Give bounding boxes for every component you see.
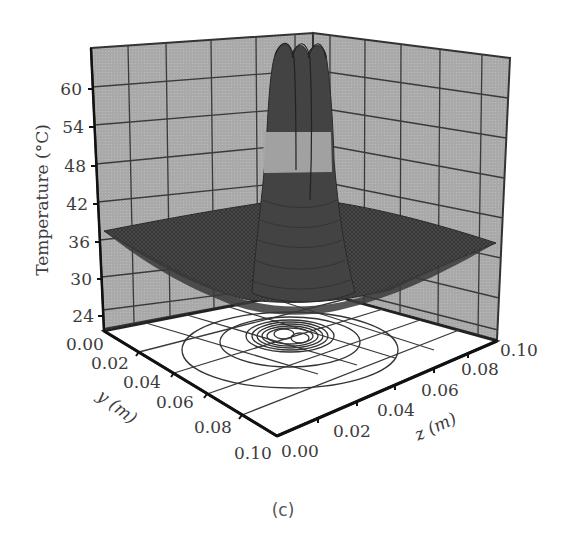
temperature-axis: 60 54 48 42 36 30 24 Temperature (°C) <box>32 48 104 331</box>
y-tick: 0.06 <box>156 392 194 412</box>
z-tick: 60 <box>60 79 82 99</box>
x-tick: 0.10 <box>500 340 538 360</box>
x-tick: 0.02 <box>333 421 371 441</box>
x-tick: 0.06 <box>421 380 459 400</box>
z-tick: 42 <box>66 194 88 214</box>
y-tick: 0.00 <box>66 334 104 354</box>
z-tick: 48 <box>64 156 86 176</box>
x-tick: 0.00 <box>281 441 319 461</box>
z-tick: 36 <box>68 232 90 252</box>
surface-plot: 60 54 48 42 36 30 24 Temperature (°C) 0.… <box>0 0 566 541</box>
z-tick: 30 <box>70 269 92 289</box>
y-tick: 0.02 <box>91 353 129 373</box>
x-tick: 0.04 <box>377 400 415 420</box>
y-tick: 0.04 <box>123 372 161 392</box>
z-tick: 54 <box>62 117 84 137</box>
figure-caption: (c) <box>0 500 566 520</box>
x-axis-title: z (m) <box>410 408 459 445</box>
y-tick: 0.08 <box>194 417 232 437</box>
temperature-axis-title: Temperature (°C) <box>32 124 52 276</box>
x-tick: 0.08 <box>461 359 499 379</box>
z-tick: 24 <box>72 306 94 326</box>
y-tick: 0.10 <box>234 443 272 463</box>
